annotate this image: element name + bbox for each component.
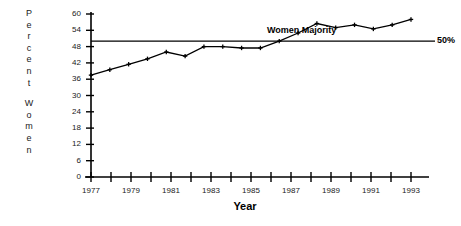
y-tick-label: 18 <box>59 123 81 132</box>
x-tick-label: 1979 <box>111 186 151 195</box>
x-tick-label: 1991 <box>351 186 391 195</box>
y-tick-label: 36 <box>59 74 81 83</box>
x-axis-title: Year <box>205 200 285 212</box>
y-tick-label: 54 <box>59 25 81 34</box>
data-series-percent-women <box>91 19 411 75</box>
y-tick-label: 48 <box>59 42 81 51</box>
chart-container: PercentWomen 06121824303642485460 197719… <box>0 0 461 226</box>
y-tick-label: 6 <box>59 156 81 165</box>
y-tick-label: 30 <box>59 91 81 100</box>
y-tick-label: 12 <box>59 139 81 148</box>
x-tick-label: 1989 <box>311 186 351 195</box>
x-tick-label: 1983 <box>191 186 231 195</box>
fifty-percent-label: 50% <box>437 35 455 45</box>
x-tick-label: 1987 <box>271 186 311 195</box>
x-tick-label: 1981 <box>151 186 191 195</box>
data-point-markers <box>89 17 413 77</box>
y-tick-label: 42 <box>59 58 81 67</box>
y-tick-label: 60 <box>59 9 81 18</box>
women-majority-annotation: Women Majority <box>267 25 336 35</box>
x-tick-label: 1977 <box>71 186 111 195</box>
chart-axes <box>85 12 429 182</box>
x-tick-label: 1985 <box>231 186 271 195</box>
y-tick-label: 0 <box>59 172 81 181</box>
x-tick-label: 1993 <box>391 186 431 195</box>
y-tick-label: 24 <box>59 107 81 116</box>
